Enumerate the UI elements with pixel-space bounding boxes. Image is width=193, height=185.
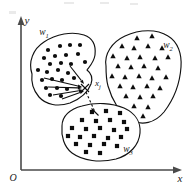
data-point-circle	[59, 94, 63, 98]
data-point-square	[108, 118, 112, 122]
origin-label: O	[9, 172, 16, 183]
data-point-square	[112, 128, 116, 132]
cluster-label-w1: w1	[39, 27, 49, 39]
data-point-circle	[72, 76, 76, 80]
data-point-circle	[59, 61, 63, 65]
data-point-square	[94, 119, 98, 123]
data-point-square	[92, 134, 96, 138]
x-axis	[21, 167, 182, 174]
data-point-square	[115, 144, 119, 148]
data-point-square	[106, 136, 110, 140]
data-point-circle	[40, 78, 44, 82]
data-point-circle	[58, 44, 62, 48]
data-point-square	[88, 143, 92, 147]
data-point-circle	[66, 71, 70, 75]
data-point-square	[118, 111, 122, 115]
data-point-square	[122, 120, 126, 124]
data-point-circle	[48, 93, 52, 97]
data-point-square	[98, 151, 102, 155]
data-point-square	[125, 127, 129, 131]
data-point-square	[78, 135, 82, 139]
data-point-circle	[69, 62, 73, 66]
data-point-circle	[68, 43, 72, 47]
data-point-square	[84, 127, 88, 131]
data-point-square	[98, 126, 102, 130]
y-axis-arrowhead	[18, 16, 25, 25]
data-point-square	[66, 134, 70, 138]
data-point-circle	[64, 53, 68, 57]
data-point-square	[104, 109, 108, 113]
data-point-circle	[56, 68, 60, 72]
data-point-square	[70, 126, 74, 130]
data-point-square	[119, 135, 123, 139]
data-point-circle	[45, 70, 49, 74]
data-point-circle	[48, 62, 52, 66]
data-point-circle	[42, 56, 46, 60]
data-point-square	[84, 150, 88, 154]
diagram-canvas: y x O xj w1 w2	[0, 0, 193, 185]
data-point-square	[80, 118, 84, 122]
cluster-outline-w1	[31, 33, 96, 105]
data-point-circle	[76, 52, 80, 56]
data-point-square	[74, 142, 78, 146]
data-point-circle	[55, 86, 59, 90]
cluster-diagram-figure: y x O xj w1 w2	[0, 0, 193, 185]
data-point-circle	[78, 43, 82, 47]
data-point-circle	[36, 68, 40, 72]
y-axis-label: y	[24, 14, 30, 26]
data-point-circle	[46, 48, 50, 52]
cluster-outlines	[31, 31, 182, 161]
data-point-circle	[44, 86, 48, 90]
data-point-circle	[83, 60, 87, 64]
data-point-circle	[53, 54, 57, 58]
data-point-square	[102, 142, 106, 146]
point-of-interest-label: xj	[94, 78, 101, 90]
x-axis-label: x	[177, 172, 183, 184]
y-axis	[18, 16, 25, 170]
